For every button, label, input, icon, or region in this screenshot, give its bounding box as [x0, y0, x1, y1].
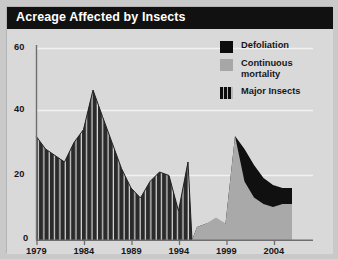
x-tick-1984: 1984 [74, 246, 95, 256]
y-tick-60: 60 [14, 42, 24, 52]
legend-item-defoliation: Defoliation [220, 40, 325, 53]
chart-card: Acreage Affected by Insects [6, 6, 332, 253]
x-tick-1994: 1994 [169, 246, 190, 256]
legend-label-continuous-mortality: Continuous mortality [241, 58, 325, 81]
legend-swatch-defoliation [220, 41, 233, 53]
x-tick-1989: 1989 [121, 246, 142, 256]
y-tick-0: 0 [23, 233, 28, 243]
legend-label-major-insects: Major Insects [241, 86, 325, 97]
chart-plot-body: 60 40 20 0 1979 1984 1989 1994 1999 2004… [7, 29, 333, 254]
y-tick-40: 40 [14, 104, 24, 114]
chart-figure: Acreage Affected by Insects [0, 0, 338, 259]
x-tick-1979: 1979 [26, 246, 47, 256]
x-tick-1999: 1999 [216, 246, 237, 256]
legend-item-major-insects: Major Insects [220, 86, 325, 99]
page-title: Acreage Affected by Insects [16, 10, 186, 24]
legend-swatch-continuous-mortality [220, 59, 233, 71]
legend-swatch-major-insects [220, 87, 233, 99]
legend-item-continuous-mortality: Continuous mortality [220, 58, 325, 81]
chart-legend: Defoliation Continuous mortality Major I… [220, 40, 325, 104]
legend-label-defoliation: Defoliation [241, 40, 325, 51]
x-tick-2004: 2004 [264, 246, 285, 256]
y-tick-20: 20 [14, 169, 24, 179]
chart-title-bar: Acreage Affected by Insects [7, 7, 333, 29]
